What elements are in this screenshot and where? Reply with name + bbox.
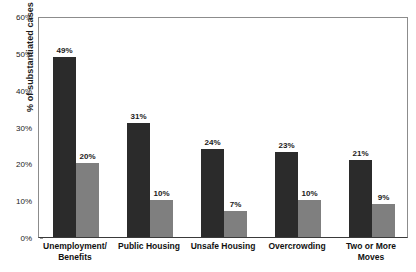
x-axis-labels: Unemployment/BenefitsPublic HousingUnsaf… bbox=[38, 241, 408, 272]
bar-value-label: 31% bbox=[130, 112, 146, 121]
y-tick-label: 50% bbox=[6, 49, 32, 58]
bar-first-nations: 31% bbox=[127, 123, 150, 237]
y-tick-label: 10% bbox=[6, 197, 32, 206]
bar-value-label: 10% bbox=[301, 189, 317, 198]
x-category-label-line2: Moves bbox=[334, 252, 408, 263]
x-category-label-line1: Public Housing bbox=[118, 241, 180, 251]
y-tick-mark bbox=[40, 238, 43, 239]
bars-layer: 49%20%31%10%24%7%23%10%21%9% bbox=[39, 18, 407, 237]
x-category-label: Overcrowding bbox=[260, 241, 334, 252]
bar-value-label: 24% bbox=[204, 138, 220, 147]
y-tick-label: 0% bbox=[6, 234, 32, 243]
x-category-label-line1: Unsafe Housing bbox=[191, 241, 256, 251]
bar-group: 31%10% bbox=[127, 18, 173, 237]
bar-group: 24%7% bbox=[201, 18, 247, 237]
bar-first-nations: 24% bbox=[201, 149, 224, 237]
bar-chart: % of substantiated cases 0%10%20%30%40%5… bbox=[0, 0, 416, 272]
x-category-label: Two or MoreMoves bbox=[334, 241, 408, 263]
bar-group: 21%9% bbox=[349, 18, 395, 237]
x-category-label: Unemployment/Benefits bbox=[38, 241, 112, 263]
bar-value-label: 23% bbox=[278, 141, 294, 150]
y-tick-label: 40% bbox=[6, 86, 32, 95]
bar-first-nations: 49% bbox=[53, 57, 76, 237]
y-axis-ticks: 0%10%20%30%40%50%60% bbox=[6, 0, 32, 272]
plot-area: 49%20%31%10%24%7%23%10%21%9% bbox=[38, 17, 408, 238]
bar-first-nations: 23% bbox=[275, 152, 298, 237]
bar-value-label: 9% bbox=[378, 193, 390, 202]
y-tick-label: 60% bbox=[6, 13, 32, 22]
bar-non-aboriginal: 9% bbox=[372, 204, 395, 237]
bar-first-nations: 21% bbox=[349, 160, 372, 237]
bar-value-label: 49% bbox=[56, 46, 72, 55]
x-category-label-line1: Unemployment/ bbox=[43, 241, 107, 251]
bar-non-aboriginal: 10% bbox=[298, 200, 321, 237]
bar-non-aboriginal: 10% bbox=[150, 200, 173, 237]
x-category-label: Public Housing bbox=[112, 241, 186, 252]
bar-group: 49%20% bbox=[53, 18, 99, 237]
x-category-label-line1: Two or More bbox=[346, 241, 396, 251]
bar-value-label: 7% bbox=[230, 200, 242, 209]
bar-value-label: 21% bbox=[352, 149, 368, 158]
x-category-label-line1: Overcrowding bbox=[268, 241, 325, 251]
bar-non-aboriginal: 20% bbox=[76, 163, 99, 237]
bar-group: 23%10% bbox=[275, 18, 321, 237]
bar-value-label: 10% bbox=[153, 189, 169, 198]
bar-value-label: 20% bbox=[79, 152, 95, 161]
x-category-label: Unsafe Housing bbox=[186, 241, 260, 252]
bar-non-aboriginal: 7% bbox=[224, 211, 247, 237]
x-category-label-line2: Benefits bbox=[38, 252, 112, 263]
y-tick-label: 30% bbox=[6, 123, 32, 132]
y-tick-label: 20% bbox=[6, 160, 32, 169]
